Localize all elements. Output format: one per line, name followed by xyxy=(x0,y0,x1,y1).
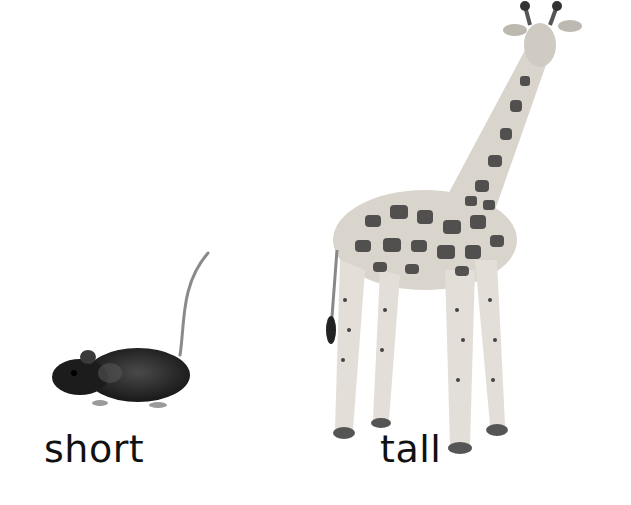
comparison-scene: short tall xyxy=(0,0,631,505)
giraffe-illustration xyxy=(325,0,595,460)
giraffe-image xyxy=(325,0,595,460)
mouse-image xyxy=(40,245,220,425)
label-short: short xyxy=(44,430,144,468)
label-tall: tall xyxy=(380,430,441,468)
mouse-illustration xyxy=(40,245,220,425)
